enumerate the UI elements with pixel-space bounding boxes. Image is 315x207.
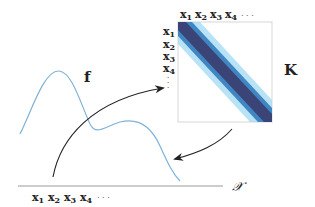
- axis-ellipsis: · · ·: [97, 193, 110, 202]
- matrix-col-label: x1: [180, 8, 192, 22]
- matrix-row-label: x1: [163, 25, 175, 39]
- kernel-matrix: [178, 22, 272, 122]
- matrix-col-ellipsis: · · ·: [241, 11, 254, 20]
- domain-label: 𝒳: [232, 179, 247, 194]
- matrix-row-label: x4: [163, 62, 176, 76]
- arrow-to-function: [175, 129, 232, 159]
- matrix-col-label: x3: [210, 8, 223, 22]
- arrow-to-matrix: [53, 88, 163, 177]
- diagram-canvas: x1 x2 x3 x4 · · · x1 x2 x3 x4 · · · K f …: [0, 0, 315, 207]
- matrix-col-label: x2: [195, 8, 207, 22]
- axis-point-label: x2: [48, 191, 60, 205]
- axis-point-label: x3: [64, 191, 77, 205]
- function-curve: [20, 71, 180, 181]
- matrix-row-ellipsis: ·: [167, 84, 169, 92]
- matrix-col-labels: x1 x2 x3 x4 · · ·: [180, 8, 254, 22]
- matrix-row-labels: x1 x2 x3 x4 · · ·: [163, 25, 176, 92]
- axis-point-labels: x1 x2 x3 x4 · · ·: [32, 191, 110, 205]
- axis-point-label: x4: [80, 191, 93, 205]
- matrix-label-K: K: [284, 61, 298, 79]
- axis-point-label: x1: [32, 191, 44, 205]
- matrix-col-label: x4: [225, 8, 238, 22]
- function-label-f: f: [84, 68, 92, 86]
